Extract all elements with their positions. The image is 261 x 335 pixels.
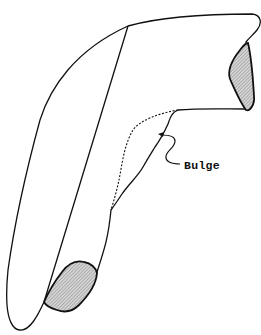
bulge-pointer-arrowhead bbox=[158, 132, 164, 137]
outer-outline bbox=[7, 14, 261, 330]
upper-end-patch bbox=[229, 43, 254, 110]
bulge-label: Bulge bbox=[184, 159, 220, 172]
bulge-pointer-line bbox=[162, 135, 180, 164]
diagram-canvas: Bulge bbox=[0, 0, 261, 335]
lower-end-patch bbox=[44, 261, 97, 311]
